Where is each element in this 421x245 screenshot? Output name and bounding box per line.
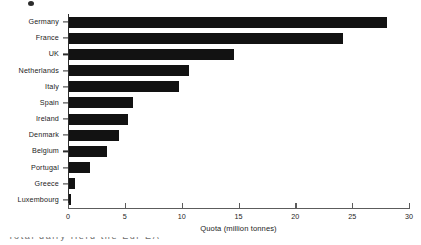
bar-row	[69, 63, 414, 79]
bar-uk	[69, 49, 234, 60]
bar-row	[69, 192, 414, 208]
y-axis-tick: Italy	[0, 79, 64, 95]
y-axis-tick: Ireland	[0, 111, 64, 127]
bar-germany	[69, 17, 387, 28]
bar-row	[69, 79, 414, 95]
y-axis-tick-label: UK	[49, 50, 59, 58]
y-axis-tick-label: Italy	[45, 83, 59, 91]
y-axis-tick: Spain	[0, 95, 64, 111]
bar-row	[69, 14, 414, 30]
bar-row	[69, 30, 414, 46]
bar-france	[69, 33, 343, 44]
y-axis-tick: Denmark	[0, 127, 64, 143]
bar-row	[69, 46, 414, 62]
y-axis-tick-label: Denmark	[29, 131, 59, 139]
x-axis-title: Quota (million tonnes)	[68, 224, 409, 233]
x-tickmark	[352, 203, 353, 209]
x-axis-tick-label: 30	[405, 213, 413, 221]
bar-chart-plot: Germany France UK Netherlands Italy Spai…	[0, 0, 421, 245]
figure-container: Germany France UK Netherlands Italy Spai…	[0, 0, 421, 245]
x-axis-tick-label: 25	[348, 213, 356, 221]
y-axis-tick-label: Greece	[35, 180, 59, 188]
x-axis-tick-label: 10	[178, 213, 186, 221]
x-tickmark	[125, 203, 126, 209]
y-axis-tick: Germany	[0, 14, 64, 30]
bar-denmark	[69, 130, 119, 141]
bar-row	[69, 160, 414, 176]
bar-series	[69, 14, 414, 208]
figure-caption-cropped: Total dairy Herd the Eur EA	[0, 237, 421, 245]
bar-greece	[69, 178, 75, 189]
y-axis-tick: Greece	[0, 176, 64, 192]
bar-spain	[69, 97, 133, 108]
bar-row	[69, 111, 414, 127]
bar-luxembourg	[69, 194, 71, 205]
y-axis-labels: Germany France UK Netherlands Italy Spai…	[0, 14, 64, 208]
y-axis-tick: France	[0, 30, 64, 46]
x-axis-tick-label: 15	[235, 213, 243, 221]
y-axis-tick: Belgium	[0, 143, 64, 159]
x-axis-tick-label: 0	[66, 213, 70, 221]
bar-row	[69, 95, 414, 111]
y-axis-tick-label: Belgium	[32, 147, 59, 155]
y-axis-tick: Portugal	[0, 160, 64, 176]
y-axis-tick: Netherlands	[0, 63, 64, 79]
bar-row	[69, 176, 414, 192]
x-tickmark	[182, 203, 183, 209]
bar-row	[69, 127, 414, 143]
y-axis-tick-label: Luxembourg	[18, 196, 59, 204]
x-tickmark	[295, 203, 296, 209]
bar-belgium	[69, 146, 107, 157]
bar-ireland	[69, 114, 128, 125]
bar-row	[69, 143, 414, 159]
y-axis-tick-label: Ireland	[36, 115, 59, 123]
y-axis-tick-label: Portugal	[31, 164, 59, 172]
y-axis-tick: UK	[0, 46, 64, 62]
y-axis-tick-label: Spain	[40, 99, 59, 107]
x-tickmark	[239, 203, 240, 209]
x-axis-tick-label: 20	[291, 213, 299, 221]
bar-portugal	[69, 162, 90, 173]
y-axis-tick: Luxembourg	[0, 192, 64, 208]
bar-netherlands	[69, 65, 189, 76]
x-tickmark	[409, 203, 410, 209]
x-tickmark	[68, 203, 69, 209]
bar-italy	[69, 81, 179, 92]
y-axis-tick-label: Netherlands	[19, 67, 59, 75]
y-axis-tick-label: France	[36, 34, 59, 42]
x-axis-tick-label: 5	[123, 213, 127, 221]
y-axis-tick-label: Germany	[28, 18, 59, 26]
figure-caption-text: Total dairy Herd the Eur EA	[8, 237, 160, 242]
